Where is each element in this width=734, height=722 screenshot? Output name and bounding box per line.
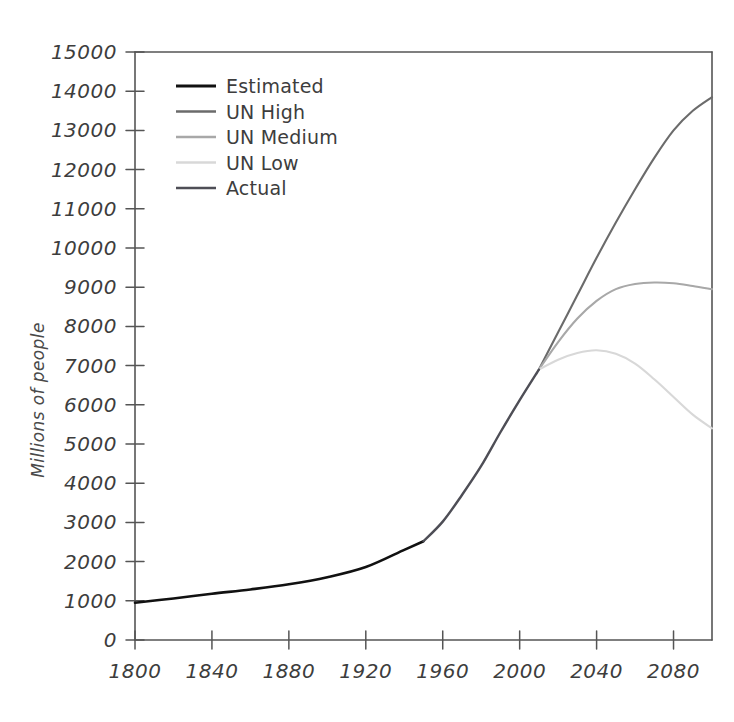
x-tick-label: 2080 bbox=[647, 659, 700, 683]
x-tick-label: 1800 bbox=[109, 659, 162, 683]
y-tick-label: 8000 bbox=[64, 314, 117, 338]
x-tick-label: 1960 bbox=[416, 659, 469, 683]
y-axis-title: Millions of people bbox=[28, 322, 48, 478]
y-tick-label: 15000 bbox=[51, 40, 117, 64]
legend-label-un-medium: UN Medium bbox=[226, 126, 338, 148]
legend-label-actual: Actual bbox=[226, 177, 287, 199]
population-projection-chart: 0100020003000400050006000700080009000100… bbox=[0, 0, 734, 722]
y-tick-label: 14000 bbox=[51, 79, 117, 103]
x-tick-label: 1880 bbox=[262, 659, 315, 683]
y-tick-label: 7000 bbox=[64, 354, 117, 378]
y-tick-label: 4000 bbox=[64, 471, 117, 495]
legend-label-estimated: Estimated bbox=[226, 75, 324, 97]
x-tick-label: 1840 bbox=[185, 659, 238, 683]
legend-label-un-high: UN High bbox=[226, 101, 305, 123]
chart-canvas: 0100020003000400050006000700080009000100… bbox=[0, 0, 734, 722]
y-tick-label: 9000 bbox=[64, 275, 117, 299]
y-tick-label: 2000 bbox=[64, 550, 117, 574]
y-tick-label: 12000 bbox=[51, 158, 117, 182]
y-tick-label: 10000 bbox=[51, 236, 117, 260]
y-tick-label: 0 bbox=[104, 628, 117, 652]
y-tick-label: 6000 bbox=[64, 393, 117, 417]
x-tick-label: 2000 bbox=[493, 659, 546, 683]
y-tick-label: 1000 bbox=[64, 589, 117, 613]
y-tick-label: 11000 bbox=[51, 197, 117, 221]
x-tick-label: 2040 bbox=[570, 659, 623, 683]
legend-label-un-low: UN Low bbox=[226, 152, 299, 174]
y-tick-label: 3000 bbox=[64, 510, 117, 534]
x-tick-label: 1920 bbox=[339, 659, 392, 683]
y-tick-label: 5000 bbox=[64, 432, 117, 456]
y-tick-label: 13000 bbox=[51, 118, 117, 142]
